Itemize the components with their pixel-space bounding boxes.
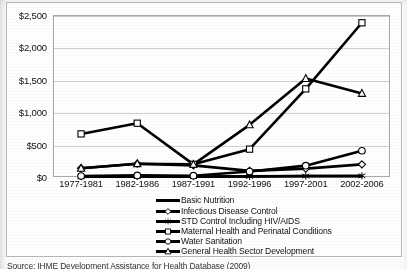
- legend-item: General Health Sector Development: [155, 247, 395, 257]
- data-point-marker-square: [78, 131, 84, 137]
- x-axis-tick-label: 1982-1986: [115, 179, 159, 189]
- source-note: Source: IHME Development Assistance for …: [7, 261, 250, 269]
- legend-key-triangle-icon: [155, 247, 181, 256]
- series-layer: [53, 15, 390, 177]
- legend-item: Maternal Health and Perinatal Conditions: [155, 227, 395, 237]
- legend-key-none-icon: [155, 196, 181, 205]
- legend-label: Infectious Disease Control: [181, 207, 277, 216]
- y-axis-tick-label: $0: [37, 172, 47, 183]
- legend-item: STD Control Including HIV/AIDS: [155, 216, 395, 226]
- data-point-marker-circle: [165, 239, 170, 244]
- legend-label: Basic Nutrition: [181, 196, 234, 205]
- legend-label: Maternal Health and Perinatal Conditions: [181, 227, 332, 236]
- chart-frame: $0$500$1,000$1,500$2,000$2,500 1977-1981…: [6, 2, 402, 257]
- series-line: [81, 151, 362, 176]
- x-axis-tick-label: 1987-1991: [172, 179, 216, 189]
- data-point-marker-circle: [246, 168, 253, 175]
- y-axis-tick-label: $1,500: [19, 74, 47, 85]
- legend-label: Water Sanitation: [181, 237, 242, 246]
- y-axis-tick-label: $1,000: [19, 107, 47, 118]
- x-axis-labels: 1977-19811982-19861987-19911992-19961997…: [53, 179, 390, 193]
- legend-label: General Health Sector Development: [181, 247, 314, 256]
- data-point-marker-circle: [190, 172, 197, 179]
- series-line: [81, 79, 362, 169]
- data-point-marker-diamond: [358, 161, 365, 168]
- legend-key-square-icon: [155, 227, 181, 236]
- data-point-marker-square: [246, 146, 252, 152]
- x-axis-tick-label: 1997-2001: [284, 179, 328, 189]
- plot-area-wrapper: [53, 15, 390, 177]
- y-axis-tick-label: $2,000: [19, 42, 47, 53]
- data-point-marker-circle: [359, 147, 366, 154]
- chart-legend: Basic NutritionInfectious Disease Contro…: [155, 196, 395, 257]
- data-point-marker-circle: [134, 172, 141, 179]
- legend-key-circle-icon: [155, 237, 181, 246]
- y-axis-tick-label: $2,500: [19, 10, 47, 21]
- legend-label: STD Control Including HIV/AIDS: [181, 217, 300, 226]
- x-axis-tick-label: 2002-2006: [340, 179, 384, 189]
- data-point-marker-diamond: [165, 208, 171, 214]
- data-point-marker-circle: [302, 162, 309, 169]
- legend-item: Basic Nutrition: [155, 196, 395, 206]
- legend-item: Water Sanitation: [155, 237, 395, 247]
- legend-key-asterisk-icon: [155, 217, 181, 226]
- data-point-marker-square: [134, 120, 140, 126]
- figure-page: $0$500$1,000$1,500$2,000$2,500 1977-1981…: [0, 0, 407, 269]
- x-axis-tick-label: 1977-1981: [59, 179, 103, 189]
- x-axis-tick-label: 1992-1996: [228, 179, 272, 189]
- legend-item: Infectious Disease Control: [155, 206, 395, 216]
- data-point-marker-square: [359, 20, 365, 26]
- y-axis-labels: $0$500$1,000$1,500$2,000$2,500: [7, 15, 51, 177]
- y-axis-tick-label: $500: [26, 139, 47, 150]
- data-point-marker-square: [303, 86, 309, 92]
- legend-key-diamond-icon: [155, 207, 181, 216]
- data-point-marker-square: [165, 229, 170, 234]
